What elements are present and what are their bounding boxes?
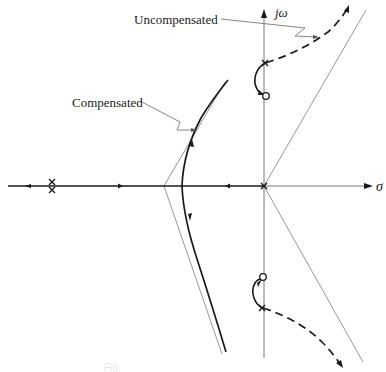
uncompensated-leader [221,19,317,37]
zero-lower-complex-icon [260,274,267,281]
imaginary-axis-label: jω [273,5,288,20]
compensated-asymptote-lower [164,186,222,354]
compensated-leader [140,101,195,130]
real-axis-label: σ [376,179,384,194]
compensated-branch-lower [182,186,226,352]
uncompensated-asymptote-lower [264,186,363,362]
compensated-label: Compensated [72,95,143,110]
real-axis-locus-arrow-left-icon [25,184,31,188]
zero-upper-complex-icon [263,93,270,100]
real-axis-arrow-icon [364,183,373,189]
compensated-asymptote-upper [164,82,225,186]
compensated-branch-upper [182,80,228,186]
real-axis-locus-arrow-mid-icon [225,184,230,189]
uncompensated-label: Uncompensated [134,12,218,27]
upper-pole-zero-arc [255,63,265,94]
compensated-branch-lower-arrow-icon [188,213,192,221]
root-locus-diagram: jω σ [0,0,386,372]
imaginary-axis-arrow-icon [261,9,267,18]
label-leaders [140,19,317,130]
figure-caption: Fig. [104,362,121,372]
real-axis-locus-arrow-right-icon [118,184,123,189]
real-axis [8,183,373,189]
uncompensated-branch-lower [263,308,340,364]
